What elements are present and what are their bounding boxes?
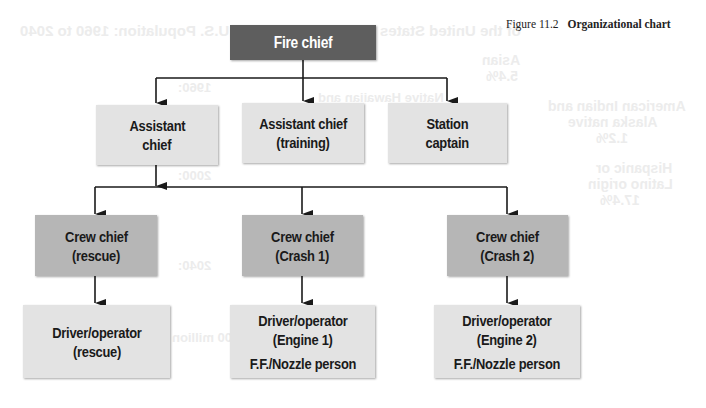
node-label: (Engine 2) [477, 330, 537, 349]
node-driver-operator-rescue: Driver/operator (rescue) [23, 305, 170, 378]
node-crew-chief-crash-2: Crew chief (Crash 2) [447, 215, 568, 276]
node-label: (rescue) [72, 246, 120, 265]
node-label: (Crash 2) [481, 246, 535, 265]
node-label: captain [426, 133, 469, 152]
node-label: Fire chief [274, 33, 333, 52]
node-label: (Crash 1) [276, 246, 330, 265]
node-label: Driver/operator [462, 311, 551, 330]
node-label: Crew chief [65, 227, 128, 246]
node-assistant-chief: Assistant chief [96, 105, 218, 165]
node-station-captain: Station captain [388, 103, 507, 163]
node-label: chief [143, 135, 172, 154]
node-label: F.F./Nozzle person [249, 354, 355, 373]
node-assistant-chief-training: Assistant chief (training) [242, 103, 364, 163]
node-label: Assistant [129, 116, 185, 135]
node-driver-operator-engine-1: Driver/operator (Engine 1) F.F./Nozzle p… [230, 305, 375, 378]
node-driver-operator-engine-2: Driver/operator (Engine 2) F.F./Nozzle p… [434, 305, 580, 378]
node-label: Driver/operator [258, 311, 347, 330]
node-crew-chief-crash-1: Crew chief (Crash 1) [242, 215, 363, 276]
node-label: Driver/operator [52, 323, 141, 342]
node-label: Crew chief [476, 227, 539, 246]
node-label: Assistant chief [259, 114, 347, 133]
node-label: (training) [276, 133, 329, 152]
node-crew-chief-rescue: Crew chief (rescue) [35, 215, 157, 276]
node-label: (Engine 1) [273, 330, 333, 349]
node-fire-chief: Fire chief [230, 25, 376, 60]
node-label: Station [427, 114, 469, 133]
node-label: (rescue) [72, 342, 120, 361]
node-label: Crew chief [271, 227, 334, 246]
node-label: F.F./Nozzle person [454, 354, 560, 373]
